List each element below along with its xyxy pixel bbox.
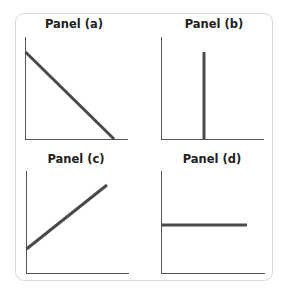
panel-a [25,37,128,140]
panel-c [26,171,129,274]
panel-d [161,171,265,274]
panel-a-curve [26,52,115,139]
panel-c-curve [27,185,108,249]
panels-graphic [0,0,287,293]
panel-b [161,37,264,140]
